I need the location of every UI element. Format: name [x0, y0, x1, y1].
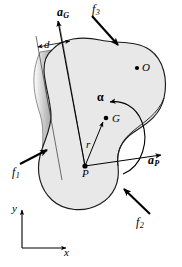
label-f1: f1 [12, 166, 20, 180]
label-G: G [112, 113, 120, 124]
label-d: d [44, 39, 50, 50]
point-O-dot [135, 66, 139, 70]
label-f3: f3 [92, 3, 100, 17]
vector-f2[interactable] [124, 189, 150, 214]
label-P: P [82, 168, 89, 179]
label-r: r [86, 139, 90, 150]
label-x-axis: x [64, 247, 69, 258]
label-f2: f2 [136, 216, 144, 230]
label-alpha: α [97, 91, 104, 103]
point-G-dot [104, 116, 109, 121]
label-aG: aG [57, 6, 69, 20]
diagram-canvas [0, 0, 182, 267]
label-y-axis: y [12, 203, 17, 214]
label-O: O [142, 62, 150, 73]
mechanics-figure: aG f3 d O α G r P aP f1 f2 y x [0, 0, 182, 267]
label-aP: aP [148, 154, 159, 168]
